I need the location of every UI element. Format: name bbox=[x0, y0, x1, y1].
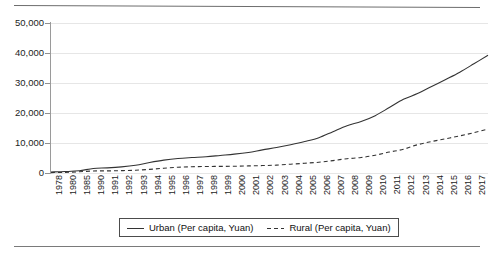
x-axis-tick-label: 2014 bbox=[436, 175, 445, 195]
x-axis-tick-label: 2005 bbox=[309, 175, 318, 195]
chart-figure: 010,00020,00030,00040,00050,000 19781980… bbox=[0, 0, 492, 254]
dashed-line-icon bbox=[267, 224, 284, 232]
x-axis-tick-label: 1978 bbox=[55, 175, 64, 195]
series-lines bbox=[51, 23, 488, 173]
x-axis-tick-label: 2015 bbox=[450, 175, 459, 195]
gridline bbox=[51, 173, 488, 174]
legend-label: Urban (Per capita, Yuan) bbox=[149, 222, 253, 233]
x-axis-tick-label: 1995 bbox=[168, 175, 177, 195]
x-axis-tick-label: 2004 bbox=[295, 175, 304, 195]
chart-legend: Urban (Per capita, Yuan)Rural (Per capit… bbox=[119, 218, 399, 237]
bottom-divider-rule bbox=[14, 246, 480, 247]
x-axis-tick-label: 1990 bbox=[97, 175, 106, 195]
x-axis-tick-label: 2008 bbox=[351, 175, 360, 195]
x-axis-tick-label: 2012 bbox=[407, 175, 416, 195]
x-axis-tick-label: 1994 bbox=[154, 175, 163, 195]
x-axis-labels: 1978198019851990199119921993199419951996… bbox=[51, 175, 488, 211]
x-axis-tick-label: 2016 bbox=[464, 175, 473, 195]
x-axis-tick-label: 2011 bbox=[393, 175, 402, 194]
x-axis-tick-label: 2002 bbox=[266, 175, 275, 195]
legend-entry: Urban (Per capita, Yuan) bbox=[127, 222, 253, 233]
y-axis-tick-label: 0 bbox=[0, 168, 44, 178]
solid-line-icon bbox=[127, 224, 144, 232]
y-axis-tick-label: 40,000 bbox=[0, 48, 44, 58]
plot-area bbox=[51, 23, 488, 173]
x-axis-tick-label: 2013 bbox=[422, 175, 431, 195]
x-axis-tick-label: 1992 bbox=[125, 175, 134, 195]
x-axis-tick-label: 1991 bbox=[111, 175, 120, 195]
x-axis-tick-label: 1993 bbox=[140, 175, 149, 195]
x-axis-tick-label: 1980 bbox=[69, 175, 78, 195]
y-axis-tick-label: 30,000 bbox=[0, 78, 44, 88]
x-axis-tick-label: 1999 bbox=[224, 175, 233, 195]
x-axis-tick-label: 2003 bbox=[281, 175, 290, 195]
x-axis-tick-label: 1985 bbox=[83, 175, 92, 195]
x-axis-tick-label: 2006 bbox=[323, 175, 332, 195]
top-divider-rule bbox=[14, 5, 480, 8]
x-axis-tick-label: 2001 bbox=[252, 175, 261, 195]
y-axis-tick-label: 10,000 bbox=[0, 138, 44, 148]
line-urban bbox=[51, 55, 488, 172]
x-axis-tick-label: 1997 bbox=[196, 175, 205, 195]
x-axis-tick-label: 2000 bbox=[238, 175, 247, 195]
line-rural bbox=[51, 129, 488, 172]
x-axis-tick-label: 1996 bbox=[182, 175, 191, 195]
x-axis-tick-label: 2017 bbox=[478, 175, 487, 195]
y-axis-labels: 010,00020,00030,00040,00050,000 bbox=[0, 0, 44, 254]
y-axis-tick-label: 50,000 bbox=[0, 18, 44, 28]
x-axis-tick-label: 2009 bbox=[365, 175, 374, 195]
x-axis-tick-label: 2010 bbox=[379, 175, 388, 195]
legend-label: Rural (Per capita, Yuan) bbox=[289, 222, 390, 233]
y-axis-tick-label: 20,000 bbox=[0, 108, 44, 118]
x-axis-tick-label: 2007 bbox=[337, 175, 346, 195]
x-axis-tick-label: 1998 bbox=[210, 175, 219, 195]
legend-entry: Rural (Per capita, Yuan) bbox=[267, 222, 390, 233]
